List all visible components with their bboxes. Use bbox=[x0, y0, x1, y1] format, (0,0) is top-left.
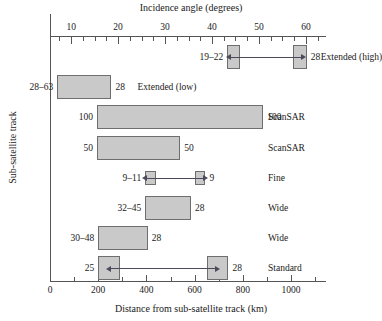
beam-mode-label: Wide bbox=[268, 203, 288, 213]
resolution-label-left: 50 bbox=[84, 143, 94, 153]
swath-bar bbox=[97, 136, 180, 160]
top-tick-label: 20 bbox=[113, 22, 123, 32]
top-tick-label: 30 bbox=[160, 22, 170, 32]
axis-tick bbox=[74, 277, 75, 281]
arrowhead-left-icon bbox=[142, 175, 147, 181]
axis-tick bbox=[118, 37, 119, 44]
axis-tick bbox=[243, 275, 244, 282]
bottom-tick-label: 1000 bbox=[282, 285, 301, 295]
beam-mode-label: Standard bbox=[268, 263, 302, 273]
arrowhead-right-icon bbox=[215, 266, 220, 272]
resolution-label-right: 28 bbox=[232, 263, 242, 273]
top-tick-label: 60 bbox=[301, 22, 311, 32]
swath-bar bbox=[98, 226, 147, 250]
y-axis-title: Sub-satellite track bbox=[7, 87, 18, 207]
axis-tick bbox=[247, 37, 248, 41]
axis-tick bbox=[318, 37, 319, 41]
left-axis-line bbox=[50, 14, 51, 281]
axis-tick bbox=[306, 37, 307, 44]
resolution-label-left: 9–11 bbox=[123, 173, 142, 183]
bottom-tick-label: 200 bbox=[91, 285, 105, 295]
beam-mode-label: Extended (low) bbox=[137, 82, 196, 92]
beam-mode-label: Extended (high) bbox=[321, 52, 382, 62]
resolution-label-left: 30–48 bbox=[70, 233, 94, 243]
resolution-label-right: 28 bbox=[152, 233, 162, 243]
axis-tick bbox=[165, 37, 166, 44]
resolution-label-left: 28–63 bbox=[29, 82, 53, 92]
resolution-label-right: 9 bbox=[209, 173, 214, 183]
beam-mode-label: ScanSAR bbox=[268, 143, 305, 153]
top-tick-label: 10 bbox=[66, 22, 76, 32]
swath-width-arrow bbox=[146, 178, 205, 179]
axis-tick bbox=[294, 37, 295, 41]
bottom-axis-title: Distance from sub-satellite track (km) bbox=[115, 303, 267, 314]
axis-tick bbox=[177, 37, 178, 41]
beam-mode-label: Fine bbox=[268, 173, 285, 183]
axis-tick bbox=[267, 277, 268, 281]
arrowhead-left-icon bbox=[226, 54, 231, 60]
bottom-tick-label: 400 bbox=[139, 285, 153, 295]
arrowhead-left-icon bbox=[106, 266, 111, 272]
resolution-label-left: 100 bbox=[79, 112, 93, 122]
axis-tick bbox=[315, 277, 316, 281]
top-tick-label: 40 bbox=[207, 22, 217, 32]
axis-tick bbox=[122, 277, 123, 281]
resolution-label-right: 28 bbox=[311, 52, 321, 62]
swath-bar bbox=[97, 105, 263, 129]
beam-mode-label: ScanSAR bbox=[268, 112, 305, 122]
axis-tick bbox=[153, 37, 154, 41]
arrowhead-right-icon bbox=[203, 175, 208, 181]
top-axis-title: Incidence angle (degrees) bbox=[140, 2, 243, 13]
axis-tick bbox=[171, 277, 172, 281]
bottom-tick-label: 600 bbox=[188, 285, 202, 295]
axis-tick bbox=[212, 37, 213, 44]
arrowhead-right-icon bbox=[301, 54, 306, 60]
axis-tick bbox=[189, 37, 190, 41]
swath-width-arrow bbox=[110, 268, 217, 269]
axis-tick bbox=[259, 37, 260, 44]
axis-tick bbox=[271, 37, 272, 41]
axis-tick bbox=[106, 37, 107, 41]
axis-tick bbox=[83, 37, 84, 41]
axis-tick bbox=[235, 37, 236, 41]
axis-tick bbox=[195, 275, 196, 282]
swath-bar bbox=[145, 196, 191, 220]
resolution-label-left: 32–45 bbox=[117, 203, 141, 213]
axis-tick bbox=[224, 37, 225, 41]
bottom-axis-line bbox=[50, 281, 326, 282]
axis-tick bbox=[95, 37, 96, 41]
bottom-tick-label: 0 bbox=[48, 285, 53, 295]
axis-tick bbox=[50, 275, 51, 282]
axis-tick bbox=[59, 37, 60, 41]
top-tick-label: 50 bbox=[254, 22, 264, 32]
resolution-label-left: 25 bbox=[85, 263, 95, 273]
axis-tick bbox=[291, 275, 292, 282]
axis-tick bbox=[142, 37, 143, 41]
swath-bar bbox=[57, 75, 111, 99]
resolution-label-left: 19–22 bbox=[199, 52, 223, 62]
axis-tick bbox=[71, 37, 72, 44]
bottom-tick-label: 800 bbox=[236, 285, 250, 295]
resolution-label-right: 28 bbox=[195, 203, 205, 213]
beam-mode-label: Wide bbox=[268, 233, 288, 243]
axis-tick bbox=[146, 275, 147, 282]
axis-tick bbox=[200, 37, 201, 41]
axis-tick bbox=[130, 37, 131, 41]
resolution-label-right: 50 bbox=[184, 143, 194, 153]
axis-tick bbox=[282, 37, 283, 41]
resolution-label-right: 28 bbox=[115, 82, 125, 92]
swath-width-arrow bbox=[230, 57, 303, 58]
